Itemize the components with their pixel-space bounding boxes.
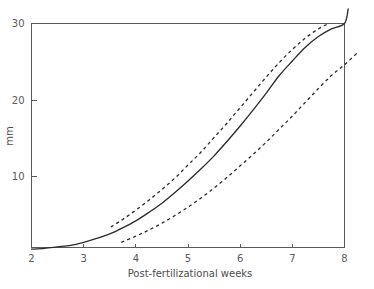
y-axis-title: mm (4, 126, 15, 145)
x-tick-label-2: 2 (28, 253, 34, 264)
x-tick-label-6: 6 (237, 253, 243, 264)
x-tick-label-5: 5 (185, 253, 191, 264)
x-tick-label-4: 4 (133, 253, 139, 264)
x-axis-title: Post-fertilizational weeks (128, 268, 253, 279)
y-tick-label-10: 10 (12, 171, 25, 182)
chart-container: 2345678 102030 Post-fertilizational week… (0, 0, 374, 289)
y-tick-label-30: 30 (12, 18, 25, 29)
x-tick-label-7: 7 (289, 253, 295, 264)
y-tick-label-20: 20 (12, 95, 25, 106)
growth-chart: 2345678 102030 Post-fertilizational week… (0, 0, 374, 289)
x-tick-label-3: 3 (80, 253, 86, 264)
chart-background (0, 0, 374, 289)
x-tick-label-8: 8 (341, 253, 347, 264)
